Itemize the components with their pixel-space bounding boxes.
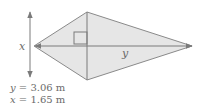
given-x-value: = 1.65 m bbox=[16, 94, 66, 105]
y-label: y bbox=[121, 47, 129, 60]
x-label: x bbox=[19, 40, 26, 53]
given-y: y = 3.06 m bbox=[10, 82, 65, 94]
given-y-value: = 3.06 m bbox=[16, 82, 66, 93]
given-x: x = 1.65 m bbox=[10, 94, 65, 106]
